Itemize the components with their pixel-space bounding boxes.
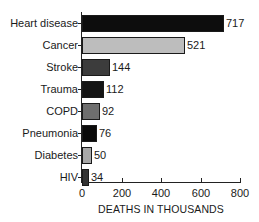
bar <box>82 37 185 54</box>
bar <box>82 81 104 98</box>
category-label: HIV <box>60 171 78 183</box>
bar <box>82 147 92 164</box>
bar <box>82 169 89 186</box>
category-label: COPD <box>46 105 78 117</box>
category-label: Diabetes <box>35 149 78 161</box>
x-tick-label: 200 <box>113 187 131 199</box>
horizontal-bar-chart: Heart disease717Cancer521Stroke144Trauma… <box>0 0 259 222</box>
category-label: Heart disease <box>10 17 78 29</box>
value-label: 92 <box>102 105 114 117</box>
value-label: 34 <box>91 171 103 183</box>
x-tick-label: 600 <box>192 187 210 199</box>
x-tick <box>240 178 241 182</box>
category-label: Pneumonia <box>22 127 78 139</box>
category-label: Stroke <box>46 61 78 73</box>
value-label: 521 <box>187 39 205 51</box>
bar <box>82 103 100 120</box>
x-axis-label: DEATHS IN THOUSANDS <box>98 203 224 215</box>
x-axis-line <box>81 182 241 183</box>
bar <box>82 15 224 32</box>
x-tick-label: 400 <box>152 187 170 199</box>
value-label: 76 <box>99 127 111 139</box>
x-tick <box>201 178 202 182</box>
x-tick <box>122 178 123 182</box>
x-tick-label: 0 <box>79 187 85 199</box>
value-label: 144 <box>112 61 130 73</box>
category-label: Trauma <box>41 83 79 95</box>
bar <box>82 59 110 76</box>
value-label: 717 <box>226 17 244 29</box>
value-label: 112 <box>106 83 124 95</box>
bar <box>82 125 97 142</box>
category-label: Cancer <box>43 39 78 51</box>
value-label: 50 <box>94 149 106 161</box>
x-tick <box>161 178 162 182</box>
x-tick-label: 800 <box>231 187 249 199</box>
